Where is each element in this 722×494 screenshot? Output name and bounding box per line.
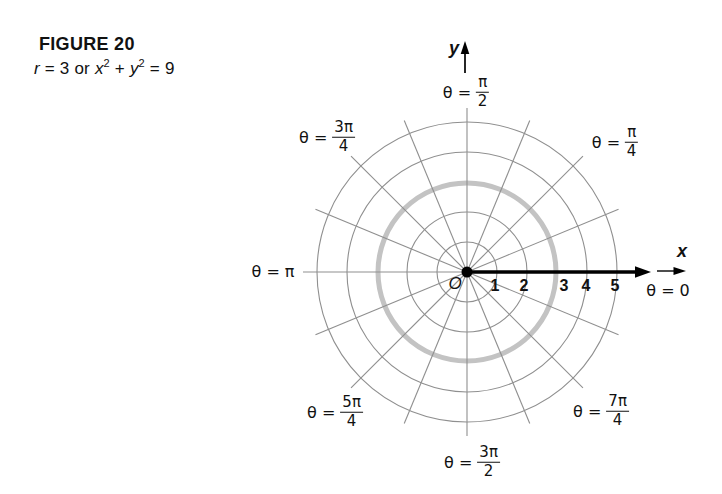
grid-spoke-9 [315, 272, 467, 335]
grid-spoke-11 [404, 272, 467, 424]
equation-segment: = 9 [145, 59, 175, 78]
grid-spoke-1 [467, 209, 619, 272]
grid-spoke-5 [404, 120, 467, 272]
equation-segment: x [95, 59, 104, 78]
x-axis-arrowhead [674, 267, 687, 275]
grid-spoke-3 [467, 120, 530, 272]
theta0-ray-arrowhead [635, 266, 651, 278]
equation-segment: y [130, 59, 139, 78]
grid-spoke-13 [467, 272, 530, 424]
figure-equation: r = 3 or x2 + y2 = 9 [34, 59, 175, 79]
figure-label: FIGURE 20 [34, 34, 175, 55]
origin-dot [462, 267, 473, 278]
grid-spoke-15 [467, 272, 619, 335]
figure-container: FIGURE 20 r = 3 or x2 + y2 = 9 y x O θ =… [0, 0, 722, 494]
y-axis-arrowhead [461, 41, 470, 54]
equation-segment: + [110, 59, 130, 78]
equation-segment: = 3 or [40, 59, 95, 78]
figure-caption: FIGURE 20 r = 3 or x2 + y2 = 9 [34, 34, 175, 79]
grid-spoke-7 [315, 209, 467, 272]
